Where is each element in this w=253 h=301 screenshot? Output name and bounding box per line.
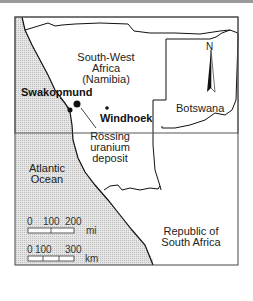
rossing-label: Rössing uranium deposit <box>90 131 130 164</box>
swakopmund-label: Swakopmund <box>21 87 93 98</box>
botswana-label: Botswana <box>176 103 224 114</box>
swakopmund-marker <box>68 108 73 113</box>
south-africa-label: Republic of South Africa <box>160 226 222 248</box>
scale-bar-km <box>28 256 74 261</box>
orange-river-border <box>104 185 160 190</box>
namibia-label: South-West Africa (Namibia) <box>76 52 136 85</box>
windhoek-label: Windhoek <box>100 113 152 124</box>
atlantic-label: Atlantic Ocean <box>27 163 67 185</box>
rossing-marker <box>74 101 81 108</box>
scale-bar-mi <box>28 228 74 233</box>
windhoek-marker <box>105 106 109 110</box>
north-label: N <box>206 41 213 52</box>
